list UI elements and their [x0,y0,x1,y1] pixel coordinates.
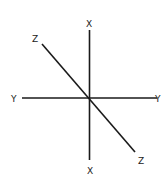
z-axis-label-bottom: Z [138,156,144,166]
z-axis-label-top: Z [32,34,38,44]
axes-diagram: X X Y Y Z Z [0,0,168,190]
x-axis-label-top: X [86,19,92,29]
y-axis-label-right: Y [154,94,161,104]
y-axis-label-left: Y [10,94,17,104]
x-axis-label-bottom: X [87,166,93,176]
